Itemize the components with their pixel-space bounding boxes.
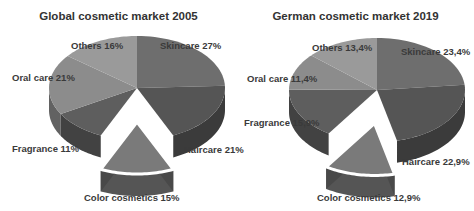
label-others: Others 13,4% <box>312 42 372 53</box>
pie-plot <box>0 0 237 211</box>
label-color-cosmetics: Color cosmetics 15% <box>84 192 180 203</box>
label-skincare: Skincare 27% <box>160 40 221 51</box>
label-haircare: Haircare 21% <box>184 144 244 155</box>
pie-chart-global-2005: Global cosmetic market 2005 Others 16% S… <box>0 0 237 211</box>
chart-title: Global cosmetic market 2005 <box>0 10 237 22</box>
chart-title: German cosmetic market 2019 <box>237 10 474 22</box>
label-haircare: Haircare 22,9% <box>402 156 470 167</box>
label-skincare: Skincare 23,4% <box>401 46 470 57</box>
pie-slice-haircare <box>377 85 465 163</box>
label-others: Others 16% <box>71 40 123 51</box>
pie-plot <box>237 0 474 211</box>
pie-chart-german-2019: German cosmetic market 2019 Others 13,4%… <box>237 0 474 211</box>
label-oral-care: Oral care 21% <box>12 72 75 83</box>
label-fragrance: Fragrance 11% <box>12 143 79 154</box>
label-oral-care: Oral care 11,4% <box>247 73 317 84</box>
pie-slice-color-cosmetics <box>326 123 394 197</box>
label-fragrance: Fragrance 15,9% <box>244 117 320 128</box>
figure: Global cosmetic market 2005 Others 16% S… <box>0 0 474 211</box>
label-color-cosmetics: Color cosmetics 12,9% <box>317 192 421 203</box>
pie-slice-color-cosmetics <box>101 122 173 196</box>
